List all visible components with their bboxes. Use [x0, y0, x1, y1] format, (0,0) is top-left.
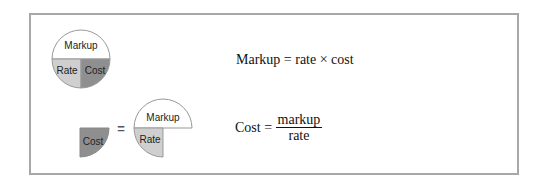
formula2-lhs: Cost — [235, 120, 261, 135]
formula2-equals: = — [264, 120, 272, 135]
equals-sign: = — [117, 121, 125, 136]
top-pie: Markup Rate Cost — [52, 30, 110, 88]
formula1-lhs: Markup — [236, 52, 280, 67]
bottom-markup-label: Markup — [146, 112, 180, 123]
cost-quarter: Cost — [80, 128, 109, 157]
markup-pie-diagram: Markup Rate Cost Cost = Markup Rate — [0, 0, 546, 187]
bottom-rate-label: Rate — [139, 134, 161, 145]
pie-rate-label: Rate — [56, 65, 78, 76]
formula2-fraction: markup rate — [276, 112, 323, 143]
cost-quarter-label: Cost — [83, 136, 104, 147]
pie-markup-label: Markup — [64, 40, 98, 51]
bottom-pie: Markup Rate — [134, 99, 192, 157]
pie-cost-label: Cost — [85, 65, 106, 76]
formula2-numerator: markup — [276, 112, 323, 128]
formula2-denominator: rate — [276, 128, 323, 143]
formula1-equals: = — [284, 52, 292, 67]
formula-cost: Cost = markup rate — [235, 112, 322, 143]
formula-markup: Markup = rate × cost — [236, 52, 354, 68]
formula1-rhs: rate × cost — [295, 52, 353, 67]
